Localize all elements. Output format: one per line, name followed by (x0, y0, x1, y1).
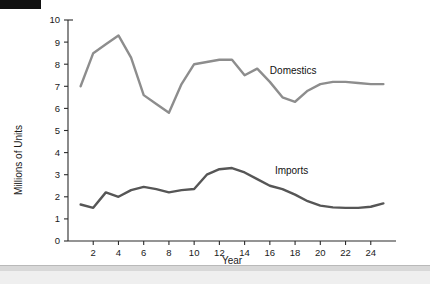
y-axis-title: Millions of Units (13, 125, 24, 195)
y-tick-label: 1 (55, 213, 60, 224)
chart-container: 012345678910 24681012141618202224 Domest… (0, 0, 430, 266)
series-inline-labels: DomesticsImports (270, 65, 317, 175)
x-tick-label: 20 (315, 247, 326, 258)
x-tick-label: 6 (141, 247, 146, 258)
y-axis-tick-labels: 012345678910 (49, 14, 60, 246)
x-tick-label: 8 (166, 247, 171, 258)
y-tick-label: 5 (55, 125, 60, 136)
y-tick-label: 3 (55, 169, 60, 180)
series-label-imports: Imports (275, 165, 308, 176)
y-tick-label: 9 (55, 37, 60, 48)
series-line-imports (81, 168, 384, 208)
series-line-domestics (81, 35, 384, 112)
x-tick-label: 4 (116, 247, 121, 258)
y-tick-label: 4 (55, 147, 60, 158)
y-tick-label: 8 (55, 59, 60, 70)
footer-band (0, 265, 430, 284)
x-tick-label: 16 (265, 247, 276, 258)
x-tick-label: 18 (290, 247, 301, 258)
line-chart-svg: 012345678910 24681012141618202224 Domest… (0, 0, 430, 266)
x-tick-label: 2 (91, 247, 96, 258)
x-tick-label: 24 (365, 247, 376, 258)
series-label-domestics: Domestics (270, 65, 317, 76)
footer-band-inner (0, 271, 430, 284)
y-tick-label: 7 (55, 81, 60, 92)
y-tick-label: 6 (55, 103, 60, 114)
chart-page: 012345678910 24681012141618202224 Domest… (0, 0, 430, 284)
data-series-group (81, 35, 384, 207)
x-tick-label: 22 (340, 247, 351, 258)
x-axis-ticks (93, 241, 371, 245)
y-tick-label: 10 (49, 14, 60, 25)
y-tick-label: 0 (55, 235, 60, 246)
y-tick-label: 2 (55, 191, 60, 202)
x-tick-label: 10 (189, 247, 200, 258)
